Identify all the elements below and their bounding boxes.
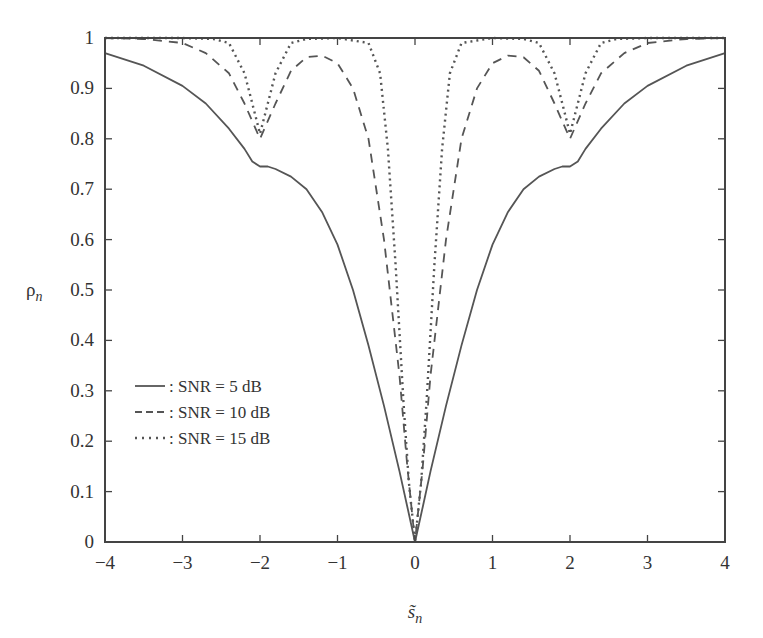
legend-label-2: : SNR = 10 dB	[169, 403, 270, 422]
y-tick-label: 0.3	[70, 380, 94, 401]
x-tick-label: 4	[720, 552, 730, 573]
x-tick-label: 3	[643, 552, 653, 573]
y-axis-label: ρn	[26, 279, 42, 304]
y-axis-label-text: ρn	[26, 279, 42, 304]
legend-label-3: : SNR = 15 dB	[169, 429, 270, 448]
x-axis-label-text: s̃n	[408, 601, 422, 626]
y-tick-label: 0.5	[70, 279, 94, 300]
plot-frame	[105, 38, 725, 542]
axes	[105, 38, 725, 542]
x-tick-label: 0	[410, 552, 420, 573]
y-tick-label: 0.1	[70, 481, 94, 502]
chart: −4−3−2−101234 00.10.20.30.40.50.60.70.80…	[0, 0, 763, 638]
y-axis-ticks: 00.10.20.30.40.50.60.70.80.91	[70, 27, 725, 552]
y-tick-label: 0	[85, 531, 95, 552]
y-tick-label: 0.9	[70, 77, 94, 98]
x-tick-label: 2	[565, 552, 575, 573]
y-tick-label: 1	[85, 27, 95, 48]
y-tick-label: 0.7	[70, 178, 94, 199]
y-tick-label: 0.2	[70, 430, 94, 451]
legend-label-1: : SNR = 5 dB	[169, 377, 262, 396]
x-tick-label: −4	[95, 552, 116, 573]
chart-canvas: −4−3−2−101234 00.10.20.30.40.50.60.70.80…	[0, 0, 763, 638]
x-tick-label: 1	[488, 552, 498, 573]
series-layer	[105, 38, 725, 542]
x-axis-label: s̃n	[408, 601, 422, 626]
series-line-3	[105, 38, 725, 542]
x-tick-label: −1	[327, 552, 347, 573]
series-line-1	[105, 53, 725, 542]
series-line-2	[105, 38, 725, 542]
y-tick-label: 0.8	[70, 128, 94, 149]
y-tick-label: 0.4	[70, 329, 94, 350]
legend: : SNR = 5 dB: SNR = 10 dB: SNR = 15 dB	[135, 377, 270, 448]
x-tick-label: −2	[250, 552, 270, 573]
x-tick-label: −3	[172, 552, 192, 573]
y-tick-label: 0.6	[70, 229, 94, 250]
x-axis-ticks: −4−3−2−101234	[95, 38, 730, 573]
